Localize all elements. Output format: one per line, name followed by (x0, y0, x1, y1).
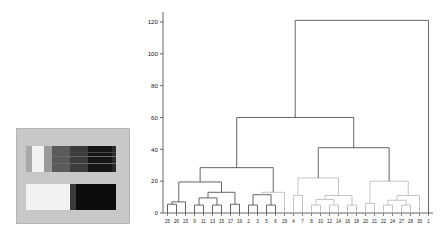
x-tick-label: 20 (363, 219, 369, 224)
x-tick-label: 16 (345, 219, 351, 224)
x-tick-label: 27 (399, 219, 405, 224)
x-tick-label: 18 (354, 219, 360, 224)
y-tick-label: 40 (151, 146, 158, 153)
dendrogram-link (366, 203, 375, 213)
dendrogram-link (172, 202, 186, 213)
x-tick-label: 1 (427, 219, 430, 224)
dendrogram-link (195, 205, 204, 213)
dendrogram-link (231, 204, 240, 213)
x-tick-label: 23 (183, 219, 189, 224)
dendrogram-link (325, 195, 352, 205)
y-tick-label: 20 (151, 177, 158, 184)
dendrogram-link (253, 195, 271, 205)
x-tick-label: 21 (372, 219, 378, 224)
x-tick-label: 9 (193, 219, 196, 224)
dendrogram-link (348, 205, 357, 213)
x-tick-label: 22 (381, 219, 387, 224)
dendrogram-link (388, 200, 406, 205)
x-tick-label: 26 (174, 219, 180, 224)
x-tick-label: 14 (336, 219, 342, 224)
x-tick-label: 30 (417, 219, 423, 224)
dendrogram-link (294, 195, 303, 213)
x-tick-label: 24 (390, 219, 396, 224)
dendrogram-link (199, 198, 217, 205)
dendrogram-link (262, 192, 285, 213)
x-tick-label: 17 (228, 219, 234, 224)
dendrogram-link (298, 178, 339, 196)
x-tick-label: 25 (165, 219, 171, 224)
x-tick-label: 19 (237, 219, 243, 224)
x-tick-label: 12 (327, 219, 333, 224)
x-tick-label: 5 (265, 219, 268, 224)
y-tick-label: 60 (151, 114, 158, 121)
x-tick-label: 29 (282, 219, 288, 224)
dendrogram-link (213, 205, 222, 213)
x-tick-label: 11 (201, 219, 206, 224)
dendrogram-link (267, 205, 276, 213)
dendrogram-link (237, 117, 354, 167)
x-tick-label: 7 (301, 219, 304, 224)
y-tick-label: 80 (151, 82, 158, 89)
x-tick-label: 6 (274, 219, 277, 224)
x-axis (163, 213, 433, 216)
dendrogram-link (330, 205, 339, 213)
dendrogram-link (200, 168, 273, 193)
dendrogram-svg: 020406080100120 252623911131517192356294… (140, 6, 438, 234)
dendrogram-link (397, 195, 420, 213)
x-tick-label: 2 (247, 219, 250, 224)
x-tick-label: 15 (219, 219, 225, 224)
grayscale-image-panel (16, 128, 130, 224)
x-tick-label: 13 (210, 219, 216, 224)
dendrogram-link (312, 205, 321, 213)
dendrogram-link (168, 204, 177, 213)
dendrogram-link (384, 205, 393, 213)
y-tick-label: 100 (148, 50, 159, 57)
y-tick-label: 0 (155, 209, 159, 216)
x-tick-labels: 2526239111315171923562947810121416182021… (165, 219, 430, 224)
y-tick-label: 120 (148, 18, 159, 25)
x-tick-label: 4 (292, 219, 295, 224)
dendrogram-link (402, 205, 411, 213)
y-axis: 020406080100120 (148, 12, 163, 216)
dendrogram-link (318, 148, 389, 181)
x-tick-label: 8 (310, 219, 313, 224)
dendrogram-plot: 020406080100120 252623911131517192356294… (140, 6, 438, 234)
x-tick-label: 28 (408, 219, 414, 224)
dendrogram-links (168, 20, 429, 213)
grayscale-image-canvas (16, 128, 130, 224)
dendrogram-link (316, 199, 334, 205)
x-tick-label: 10 (318, 219, 324, 224)
x-tick-label: 3 (256, 219, 259, 224)
dendrogram-link (249, 205, 258, 213)
